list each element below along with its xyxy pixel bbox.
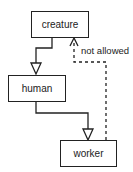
node-creature: creature (31, 11, 89, 38)
inheritance-arrow-icon (83, 129, 93, 140)
node-label: worker (73, 148, 103, 159)
edge-label: not allowed (81, 45, 129, 56)
node-worker: worker (60, 140, 117, 167)
edge-human-creature (36, 37, 52, 63)
edge-worker-human (36, 101, 88, 129)
node-human: human (8, 75, 66, 102)
inheritance-arrow-icon (31, 63, 41, 74)
node-label: creature (42, 19, 79, 30)
node-label: human (22, 83, 53, 94)
